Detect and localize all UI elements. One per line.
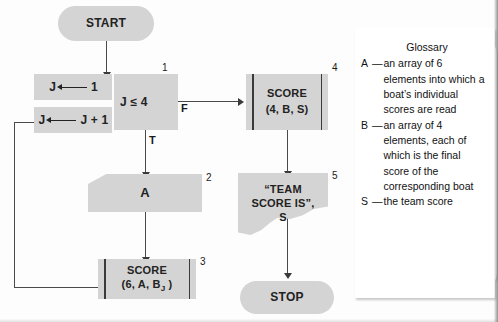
score-team-line2: (4, B, S) xyxy=(266,103,309,117)
connector-score-team-to-output xyxy=(287,130,288,173)
decision-label: J ≤ 4 xyxy=(120,95,148,110)
node-stop-label: STOP xyxy=(270,290,303,305)
glossary-title: Glossary xyxy=(361,40,487,55)
assign-arrow-icon xyxy=(46,116,76,124)
output-line2: SCORE IS”, xyxy=(238,197,328,211)
node-output-team-score[interactable]: “TEAM SCORE IS”, S xyxy=(238,173,328,235)
glossary-entry-b: B — an array of 4 elements, each of whic… xyxy=(361,118,487,195)
step-number-3: 3 xyxy=(200,256,206,267)
init-j-lhs: J xyxy=(48,80,57,95)
glossary-dash-a: — xyxy=(371,56,384,71)
glossary-panel: Glossary A — an array of 6 elements into… xyxy=(355,28,495,298)
score-boat-line1: SCORE xyxy=(127,264,167,278)
incr-j-lhs: J xyxy=(38,113,47,128)
glossary-entry-s: S — the team score xyxy=(361,194,487,209)
connector-loop-left xyxy=(14,122,15,287)
flowchart-figure: START J 1 J J + 1 J ≤ 4 1 F T A 2 SCORE xyxy=(0,0,498,322)
step-number-1: 1 xyxy=(162,62,168,73)
score-team-line1: SCORE xyxy=(267,87,307,101)
node-start-label: START xyxy=(86,16,126,31)
connector-read-a-to-score-boat xyxy=(145,212,146,259)
branch-label-true: T xyxy=(149,134,156,146)
glossary-key-b: B xyxy=(361,118,371,133)
read-a-label: A xyxy=(140,185,150,201)
glossary-dash-s: — xyxy=(371,194,384,209)
output-text: “TEAM SCORE IS”, S xyxy=(238,183,328,224)
arrowhead-false-to-score-team xyxy=(238,98,244,106)
node-increment-j[interactable]: J J + 1 xyxy=(34,107,112,133)
score-boat-args-post: ) xyxy=(165,278,172,290)
connector-loop-bottom xyxy=(14,287,98,288)
node-score-team[interactable]: SCORE (4, B, S) xyxy=(246,74,328,130)
output-line1: “TEAM xyxy=(238,183,328,197)
assign-arrow-icon xyxy=(57,83,87,91)
node-decision-j-le-4[interactable]: J ≤ 4 xyxy=(114,74,178,130)
glossary-key-a: A xyxy=(361,56,371,71)
branch-label-false: F xyxy=(181,102,188,114)
assignment-increment-j: J J + 1 xyxy=(34,113,112,128)
connector-true-to-read-a xyxy=(145,130,146,174)
glossary-key-s: S xyxy=(361,194,371,209)
score-boat-args-pre: (6, A, B xyxy=(122,278,161,290)
glossary-definition-s: the team score xyxy=(384,194,488,209)
step-number-2: 2 xyxy=(206,172,212,183)
connector-loop-top xyxy=(14,122,36,123)
step-number-5: 5 xyxy=(332,170,338,181)
glossary-entry-a: A — an array of 6 elements into which a … xyxy=(361,56,487,117)
node-start[interactable]: START xyxy=(58,6,154,41)
step-number-4: 4 xyxy=(332,62,338,73)
glossary-definition-a: an array of 6 elements into which a boat… xyxy=(384,56,488,117)
glossary-definition-b: an array of 4 elements, each of which is… xyxy=(384,118,488,195)
assignment-init-j: J 1 xyxy=(34,80,112,95)
incr-j-rhs: J + 1 xyxy=(76,113,108,128)
arrowhead-output-to-stop xyxy=(284,273,292,279)
node-stop[interactable]: STOP xyxy=(240,281,334,314)
glossary-dash-b: — xyxy=(371,118,384,133)
node-score-boat[interactable]: SCORE (6, A, BJ ) xyxy=(98,259,196,299)
glossary-content: Glossary A — an array of 6 elements into… xyxy=(355,28,495,210)
init-j-rhs: 1 xyxy=(87,80,98,95)
connector-start-to-init xyxy=(106,41,107,74)
score-boat-line2: (6, A, BJ ) xyxy=(122,278,173,294)
output-line3: S xyxy=(238,211,328,225)
node-init-j[interactable]: J 1 xyxy=(34,74,112,100)
node-read-a[interactable]: A xyxy=(88,174,202,212)
